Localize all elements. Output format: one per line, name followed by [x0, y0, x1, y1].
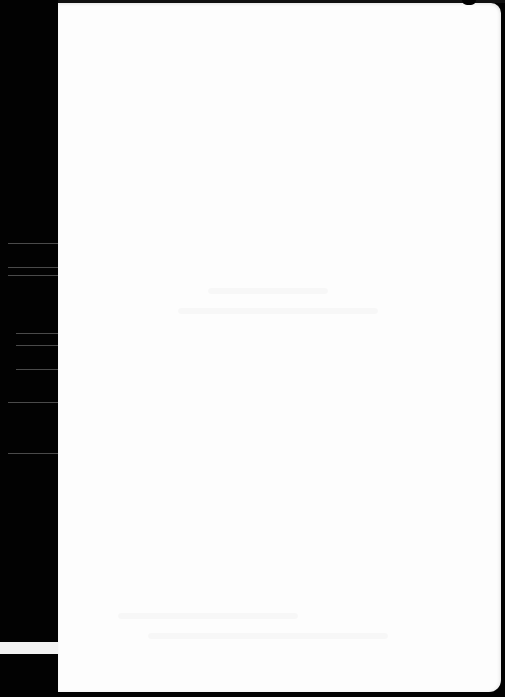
bleed-through-mark: [178, 308, 378, 314]
scan-streak: [16, 345, 58, 346]
scan-streak: [16, 333, 58, 334]
scan-streak: [16, 369, 58, 370]
scan-streak: [8, 243, 58, 244]
scan-streak: [8, 275, 58, 276]
bleed-through-mark: [208, 288, 328, 294]
scan-streak: [8, 453, 58, 454]
scan-streak: [8, 267, 58, 268]
blank-page: [58, 3, 501, 692]
page-top-edge: [58, 0, 505, 3]
bleed-through-mark: [148, 633, 388, 639]
page-content: [58, 3, 501, 692]
bleed-through-mark: [118, 613, 298, 619]
scan-streak: [8, 402, 58, 403]
scan-artifact-bar: [0, 642, 62, 654]
